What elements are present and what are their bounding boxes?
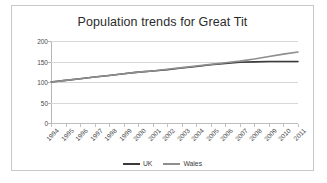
- x-tick-label: 2001: [146, 127, 161, 142]
- x-tick-label: 2008: [248, 127, 263, 142]
- x-axis-labels: 1994199519961997199819992000200120022003…: [51, 127, 298, 153]
- y-tick-label: 50: [22, 99, 48, 106]
- x-tick-label: 1995: [59, 127, 74, 142]
- y-tick-mark: [48, 41, 51, 42]
- x-tick-label: 2006: [219, 127, 234, 142]
- x-tick-label: 2011: [292, 127, 307, 142]
- x-tick-label: 1994: [45, 127, 60, 142]
- legend-item-wales: Wales: [163, 161, 202, 168]
- legend-swatch-wales: [163, 163, 180, 165]
- y-tick-label: 0: [22, 120, 48, 127]
- x-tick-label: 2010: [277, 127, 292, 142]
- series-line-uk: [51, 62, 298, 83]
- y-tick-mark: [48, 103, 51, 104]
- x-tick-label: 1996: [74, 127, 89, 142]
- x-tick-label: 2002: [161, 127, 176, 142]
- series-lines: [51, 41, 298, 123]
- x-tick-label: 2003: [176, 127, 191, 142]
- y-axis-labels: 050100150200: [20, 41, 48, 123]
- y-tick-label: 150: [22, 58, 48, 65]
- x-tick-label: 2005: [205, 127, 220, 142]
- chart-legend: UK Wales: [12, 161, 313, 168]
- x-tick-label: 2004: [190, 127, 205, 142]
- x-tick-label: 1998: [103, 127, 118, 142]
- legend-item-uk: UK: [123, 161, 152, 168]
- y-tick-label: 100: [22, 79, 48, 86]
- legend-label-wales: Wales: [183, 161, 202, 168]
- y-tick-mark: [48, 82, 51, 83]
- y-tick-mark: [48, 123, 51, 124]
- series-line-wales: [51, 52, 298, 82]
- x-tick-label: 1997: [88, 127, 103, 142]
- legend-swatch-uk: [123, 163, 140, 165]
- chart-container: Population trends for Great Tit 05010015…: [11, 5, 314, 171]
- y-tick-label: 200: [22, 38, 48, 45]
- legend-label-uk: UK: [143, 161, 152, 168]
- plot-area: [51, 41, 298, 123]
- x-tick-label: 2007: [234, 127, 249, 142]
- y-tick-mark: [48, 62, 51, 63]
- x-tick-mark: [298, 124, 299, 127]
- x-tick-label: 2000: [132, 127, 147, 142]
- chart-title: Population trends for Great Tit: [12, 15, 313, 29]
- x-tick-label: 2009: [263, 127, 278, 142]
- x-tick-label: 1999: [117, 127, 132, 142]
